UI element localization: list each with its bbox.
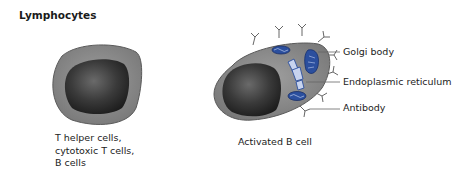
endoplasmic-reticulum-label: Endoplasmic reticulum xyxy=(343,76,452,87)
antibody-icon xyxy=(298,24,306,36)
activated-b-cell xyxy=(214,24,340,120)
nucleus xyxy=(222,63,281,116)
golgi-body xyxy=(305,50,319,74)
caption-line: cytotoxic T cells, xyxy=(55,145,134,158)
antibody-label: Antibody xyxy=(343,102,385,113)
antibody-icon xyxy=(316,93,327,102)
resting-lymphocyte xyxy=(53,45,142,125)
antibody-icon xyxy=(275,26,283,38)
caption-line: B cells xyxy=(55,157,134,170)
caption-line: T helper cells, xyxy=(55,132,134,145)
antibody-icon xyxy=(251,33,259,45)
activated-b-cell-caption: Activated B cell xyxy=(238,136,312,149)
antibody-icon xyxy=(318,31,330,42)
golgi-body-label: Golgi body xyxy=(343,46,394,57)
resting-lymphocyte-caption: T helper cells, cytotoxic T cells, B cel… xyxy=(55,132,134,170)
antibody-icon xyxy=(300,106,310,117)
nucleus xyxy=(65,59,129,114)
